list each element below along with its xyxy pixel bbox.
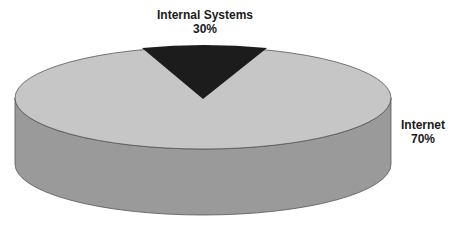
label-internal-systems-pct: 30% xyxy=(140,22,270,36)
label-internet-pct: 70% xyxy=(393,132,453,146)
label-internet: Internet 70% xyxy=(393,118,453,146)
label-internet-name: Internet xyxy=(393,118,453,132)
label-internal-systems: Internal Systems 30% xyxy=(140,8,270,36)
label-internal-systems-name: Internal Systems xyxy=(140,8,270,22)
